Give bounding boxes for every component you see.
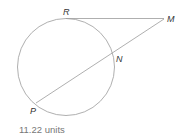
secant-segment-pm [36, 19, 164, 103]
circle [18, 19, 115, 116]
point-label-m: M [167, 14, 175, 24]
point-label-p: P [30, 106, 36, 116]
point-label-r: R [63, 7, 70, 17]
answer-text: 11.22 units [19, 124, 65, 135]
geometry-figure: R M N P [0, 0, 186, 140]
point-label-n: N [116, 54, 123, 64]
